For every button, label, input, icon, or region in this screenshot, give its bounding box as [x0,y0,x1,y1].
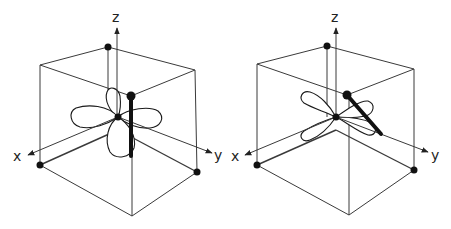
right-cube-diagram: z x y [231,9,439,215]
right-axes [245,28,428,155]
left-dot-front-top [127,92,136,101]
left-y-label: y [214,147,222,163]
right-dot-y [411,167,418,174]
right-dot-x [254,162,261,169]
left-z-label: z [112,9,119,25]
right-x-label: x [231,148,239,164]
diagram-canvas: z x y [0,0,451,229]
left-dot-center [115,114,122,121]
right-dot-back-top [324,43,331,50]
left-dot-x [37,162,44,169]
right-y-label: y [431,147,439,163]
left-x-label: x [13,148,21,164]
left-cube-diagram: z x y [13,9,222,216]
left-dot-y [194,169,201,176]
left-dot-back-top [105,44,112,51]
right-dot-front-top [343,91,352,100]
right-dot-center [333,114,340,121]
right-z-label: z [331,9,338,25]
